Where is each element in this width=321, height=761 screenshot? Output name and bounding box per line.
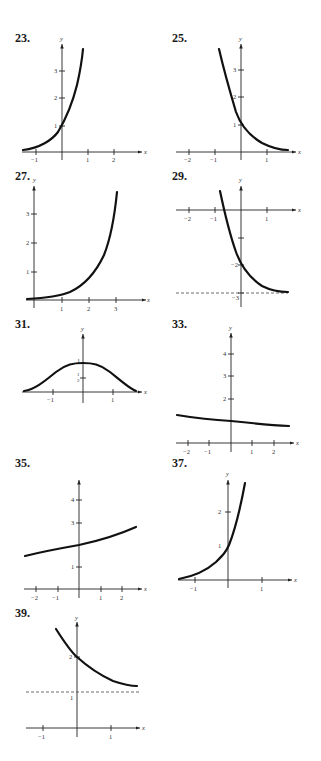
exercise-number: 25.	[172, 31, 187, 45]
svg-text:−3: −3	[232, 294, 239, 301]
curve	[24, 363, 136, 391]
svg-text:1: 1	[71, 563, 74, 570]
svg-text:−1: −1	[47, 396, 54, 403]
svg-text:y: y	[80, 325, 84, 332]
svg-text:x: x	[141, 724, 145, 731]
svg-text:1: 1	[250, 448, 253, 455]
svg-text:−1: −1	[204, 448, 211, 455]
svg-text:1: 1	[60, 305, 63, 312]
curve	[177, 415, 289, 426]
graph-31: 31. y x −1 1 1 1 2	[15, 317, 147, 403]
svg-text:1: 1	[77, 372, 80, 377]
y-axis-label: y	[59, 35, 63, 42]
svg-text:2: 2	[218, 508, 221, 515]
svg-text:−2: −2	[183, 448, 190, 455]
graph-35: 35. x −2 −1 1 2 1 3 4	[15, 456, 147, 601]
graph-33: 33. y x −2 −1 1 2 2 3 4	[172, 317, 299, 455]
svg-text:−2: −2	[184, 156, 191, 163]
svg-text:1: 1	[70, 694, 73, 701]
exercise-number: 27.	[15, 169, 30, 183]
svg-text:−1: −1	[190, 585, 197, 592]
graph-27: 27. y x 1 2 3 1 2 3	[15, 169, 150, 312]
svg-text:1: 1	[99, 594, 102, 601]
svg-text:y: y	[228, 324, 232, 331]
svg-text:1: 1	[218, 542, 221, 549]
svg-text:4: 4	[71, 496, 75, 503]
svg-text:2: 2	[112, 156, 115, 163]
svg-text:−1: −1	[52, 594, 59, 601]
svg-text:3: 3	[223, 372, 226, 379]
svg-text:1: 1	[260, 585, 263, 592]
exercise-graphs: 23. x y −1 1 2 1 2 3 25. x y −2 −1 1 1 2…	[0, 0, 321, 761]
svg-text:2: 2	[69, 653, 72, 660]
curve	[23, 49, 83, 150]
svg-text:y: y	[238, 176, 242, 183]
curve	[219, 49, 288, 150]
svg-text:2: 2	[233, 93, 236, 100]
svg-text:−2: −2	[231, 261, 238, 268]
svg-text:2: 2	[26, 239, 29, 246]
svg-text:x: x	[143, 585, 147, 592]
exercise-number: 29.	[172, 169, 187, 183]
svg-text:1: 1	[111, 396, 114, 403]
svg-text:3: 3	[26, 210, 29, 217]
svg-text:3: 3	[71, 519, 74, 526]
svg-text:2: 2	[54, 94, 57, 101]
curve	[179, 483, 245, 579]
svg-text:4: 4	[223, 350, 227, 357]
svg-text:2: 2	[120, 594, 123, 601]
exercise-number: 33.	[172, 317, 187, 331]
svg-text:1: 1	[233, 121, 236, 128]
graph-29: 29. y x −2 −1 1 −2 −3	[172, 169, 301, 307]
svg-text:x: x	[297, 206, 301, 213]
svg-text:−2: −2	[184, 215, 191, 222]
svg-text:x: x	[143, 388, 147, 395]
exercise-number: 23.	[15, 31, 30, 45]
svg-text:2: 2	[87, 305, 90, 312]
graph-37: 37. y x −1 1 1 2	[172, 456, 297, 592]
graph-23: 23. x y −1 1 2 1 2 3	[15, 31, 147, 163]
svg-text:y: y	[32, 176, 36, 183]
svg-text:y: y	[238, 35, 242, 42]
svg-text:−1: −1	[210, 215, 217, 222]
svg-text:1: 1	[109, 733, 112, 740]
svg-text:−1: −1	[31, 156, 38, 163]
svg-text:x: x	[293, 576, 297, 583]
curve	[220, 191, 288, 292]
x-axis-label: x	[143, 148, 147, 155]
svg-text:1: 1	[265, 215, 268, 222]
svg-text:y: y	[225, 470, 229, 477]
graph-25: 25. x y −2 −1 1 1 2 3	[172, 31, 301, 163]
curve	[25, 527, 136, 556]
svg-text:1: 1	[54, 122, 57, 129]
svg-text:x: x	[297, 148, 301, 155]
svg-text:−1: −1	[210, 156, 217, 163]
svg-text:2: 2	[77, 378, 80, 383]
svg-text:1: 1	[26, 268, 29, 275]
curve	[27, 192, 117, 299]
svg-text:3: 3	[54, 67, 57, 74]
svg-text:2: 2	[223, 395, 226, 402]
exercise-number: 35.	[15, 456, 30, 470]
svg-text:−1: −1	[38, 733, 45, 740]
svg-text:3: 3	[114, 305, 117, 312]
exercise-number: 31.	[15, 317, 30, 331]
svg-text:y: y	[74, 614, 78, 621]
svg-text:x: x	[146, 296, 150, 303]
svg-text:x: x	[295, 439, 299, 446]
svg-text:1: 1	[86, 156, 89, 163]
svg-text:1: 1	[265, 156, 268, 163]
svg-text:2: 2	[272, 448, 275, 455]
svg-text:3: 3	[233, 66, 236, 73]
svg-text:−2: −2	[31, 594, 38, 601]
exercise-number: 37.	[172, 456, 187, 470]
graph-39: 39. y x −1 1 1 2	[15, 606, 145, 740]
exercise-number: 39.	[15, 606, 30, 620]
